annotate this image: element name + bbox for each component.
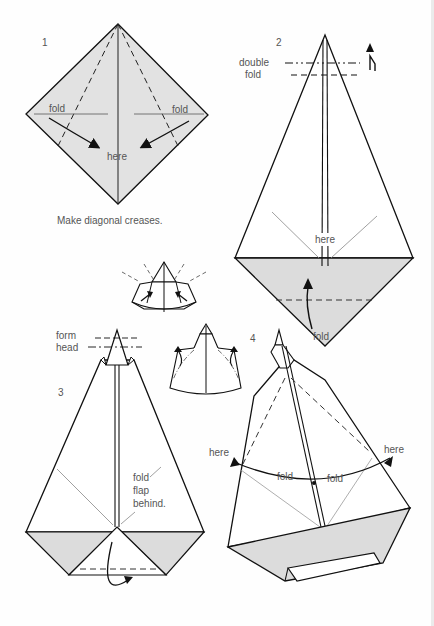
step-2-zigzag-arrowhead-icon xyxy=(366,43,374,52)
step-3-form-label: form xyxy=(56,330,76,341)
detail-b-left-arrow-icon xyxy=(174,346,182,352)
step-1-fold-right-label: fold xyxy=(172,104,188,115)
step-2-here-label: here xyxy=(315,234,335,245)
step-2-double-label: double xyxy=(239,57,269,68)
origami-diagram: 1 fold fold here Make diagonal creases. … xyxy=(0,0,434,626)
step-3-flap-label: flap xyxy=(133,485,150,496)
head-forming-detail-a xyxy=(122,262,206,312)
step-1-fold-left-label: fold xyxy=(49,103,65,114)
step-3-behind-label: behind. xyxy=(133,498,166,509)
detail-b-right-arrow-icon xyxy=(230,346,238,352)
step-3-curl-arrowhead-icon xyxy=(124,576,133,584)
step-1-here-label: here xyxy=(107,151,127,162)
step-4-fold-left-label: fold xyxy=(277,471,293,482)
step-4-fold-right-label: fold xyxy=(327,473,343,484)
step-2-fold-bottom-label: fold xyxy=(313,331,329,342)
step-1: 1 fold fold here Make diagonal creases. xyxy=(26,24,208,226)
step-2-fold-label: fold xyxy=(245,69,261,80)
step-1-caption: Make diagonal creases. xyxy=(57,215,163,226)
origami-diagram-page: 1 fold fold here Make diagonal creases. … xyxy=(0,0,434,626)
step-4-here-left-label: here xyxy=(209,447,229,458)
step-2: 2 double fold here xyxy=(235,35,413,346)
step-4-left-arrowhead-icon xyxy=(230,457,240,467)
step-2-upper-kite xyxy=(235,35,413,258)
step-3-head xyxy=(106,330,128,365)
step-2-number: 2 xyxy=(276,37,282,48)
step-4: 4 here here fold xyxy=(209,330,410,581)
head-forming-detail-b xyxy=(170,324,241,394)
step-3-fold-label: fold xyxy=(133,472,149,483)
step-3-number: 3 xyxy=(58,387,64,398)
step-2-zigzag-arrow xyxy=(370,56,375,71)
step-3-head-label: head xyxy=(56,342,78,353)
step-4-here-right-label: here xyxy=(384,444,404,455)
step-4-right-arrowhead-icon xyxy=(384,456,393,467)
step-1-number: 1 xyxy=(42,37,48,48)
step-4-number: 4 xyxy=(250,333,256,344)
